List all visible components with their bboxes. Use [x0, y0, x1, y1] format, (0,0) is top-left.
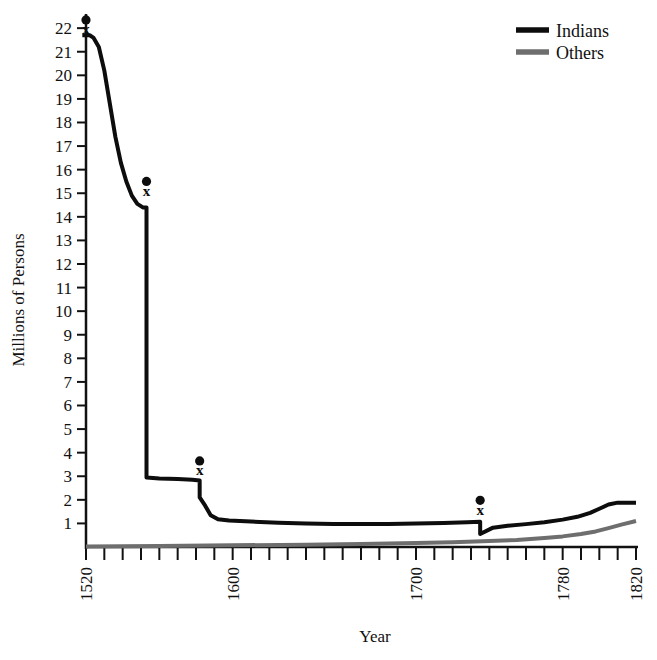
annotation-x-label: x [196, 462, 204, 478]
y-axis-tick-label: 19 [55, 90, 72, 109]
x-axis-tick-label: 1600 [224, 567, 243, 601]
x-axis-tick-label: 1520 [77, 567, 96, 601]
y-axis-tick-label: 8 [64, 349, 73, 368]
y-axis-tick-label: 3 [64, 467, 73, 486]
y-axis-tick-label: 21 [55, 43, 72, 62]
y-axis-tick-label: 17 [55, 137, 73, 156]
population-decline-line-chart: 12345678910111213141516171819202122 1520… [0, 0, 657, 660]
y-axis-tick-label: 14 [55, 208, 73, 227]
annotation-x-label: x [82, 21, 90, 37]
y-axis-tick-label: 16 [55, 161, 72, 180]
y-axis-tick-label: 10 [55, 302, 72, 321]
y-axis-tick-label: 2 [64, 491, 73, 510]
chart-background [0, 0, 657, 660]
annotation-x-label: x [143, 183, 151, 199]
y-axis-tick-label: 7 [64, 373, 73, 392]
x-axis-tick-label: 1820 [627, 567, 646, 601]
y-axis-tick-label: 6 [64, 396, 73, 415]
legend-label-indians: Indians [556, 21, 609, 41]
y-axis-tick-label: 5 [64, 420, 73, 439]
x-axis-tick-label: 1780 [554, 567, 573, 601]
y-axis-tick-label: 22 [55, 19, 72, 38]
y-axis-tick-label: 20 [55, 66, 72, 85]
y-axis-tick-label: 9 [64, 326, 73, 345]
y-axis-tick-label: 15 [55, 184, 72, 203]
y-axis-tick-label: 11 [56, 279, 72, 298]
y-axis-tick-label: 1 [64, 514, 73, 533]
x-axis-tick-label: 1700 [407, 567, 426, 601]
y-axis-tick-label: 18 [55, 113, 72, 132]
annotation-x-label: x [476, 502, 484, 518]
x-axis-title: Year [359, 627, 391, 646]
y-axis-tick-label: 4 [64, 444, 73, 463]
y-axis-tick-label: 13 [55, 231, 72, 250]
legend-label-others: Others [556, 43, 604, 63]
chart-container: 12345678910111213141516171819202122 1520… [0, 0, 657, 660]
y-axis-title: Millions of Persons [9, 233, 28, 366]
y-axis-tick-label: 12 [55, 255, 72, 274]
